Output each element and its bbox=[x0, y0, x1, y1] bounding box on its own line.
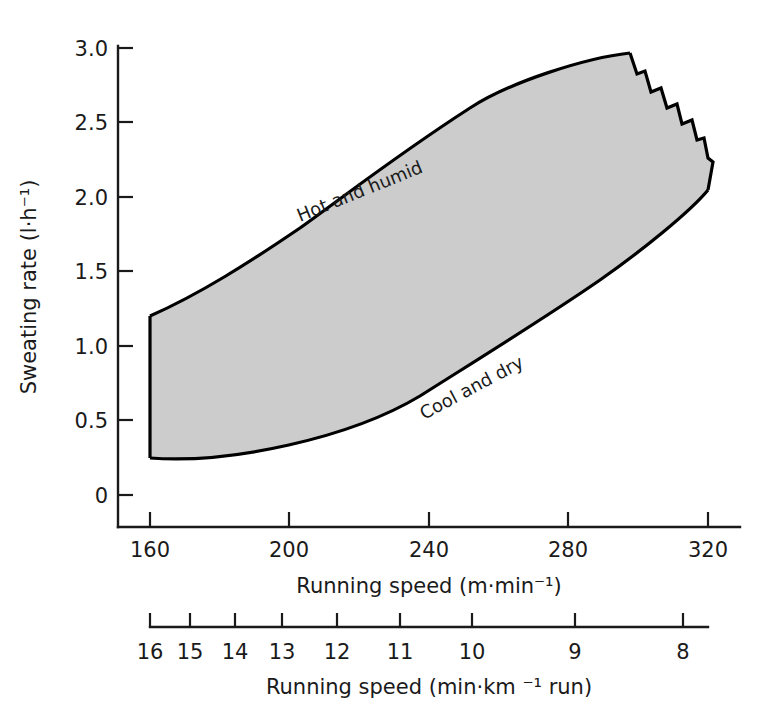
x-axis-title: Running speed (m·min⁻¹) bbox=[296, 574, 561, 598]
y-tick-label-0: 0 bbox=[95, 484, 108, 508]
x-tick-label-200: 200 bbox=[269, 538, 309, 562]
x2-tick-label-14: 14 bbox=[222, 640, 249, 664]
x-axis-tick-labels: 160 200 240 280 320 bbox=[130, 538, 728, 562]
x2-tick-label-12: 12 bbox=[324, 640, 351, 664]
y-tick-label-2-0: 2.0 bbox=[75, 186, 108, 210]
x-tick-label-160: 160 bbox=[130, 538, 170, 562]
x-tick-label-240: 240 bbox=[409, 538, 449, 562]
y-tick-label-1-5: 1.5 bbox=[75, 260, 108, 284]
secondary-x-axis-ticks bbox=[150, 613, 683, 627]
x2-tick-label-13: 13 bbox=[269, 640, 296, 664]
y-axis-title: Sweating rate (l·h⁻¹) bbox=[17, 180, 41, 395]
figure-container: 3.0 2.5 2.0 1.5 1.0 0.5 0 160 200 240 28… bbox=[0, 0, 773, 706]
y-axis-ticks bbox=[118, 48, 133, 495]
x2-tick-label-16: 16 bbox=[137, 640, 164, 664]
secondary-x-axis-title: Running speed (min·km ⁻¹ run) bbox=[266, 675, 592, 699]
y-axis-tick-labels: 3.0 2.5 2.0 1.5 1.0 0.5 0 bbox=[75, 37, 108, 508]
y-tick-label-3-0: 3.0 bbox=[75, 37, 108, 61]
y-tick-label-1-0: 1.0 bbox=[75, 335, 108, 359]
x-axis-ticks bbox=[150, 512, 708, 527]
x2-tick-label-11: 11 bbox=[387, 640, 414, 664]
x-tick-label-320: 320 bbox=[688, 538, 728, 562]
x2-tick-label-15: 15 bbox=[177, 640, 204, 664]
y-tick-label-2-5: 2.5 bbox=[75, 111, 108, 135]
y-tick-label-0-5: 0.5 bbox=[75, 409, 108, 433]
x2-tick-label-10: 10 bbox=[459, 640, 486, 664]
x2-tick-label-9: 9 bbox=[568, 640, 581, 664]
x2-tick-label-8: 8 bbox=[676, 640, 689, 664]
x-tick-label-280: 280 bbox=[548, 538, 588, 562]
secondary-x-axis-tick-labels: 16 15 14 13 12 11 10 9 8 bbox=[137, 640, 690, 664]
chart-canvas: 3.0 2.5 2.0 1.5 1.0 0.5 0 160 200 240 28… bbox=[0, 0, 773, 706]
